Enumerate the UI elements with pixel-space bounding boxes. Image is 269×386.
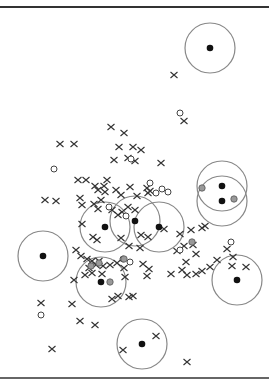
center-point <box>207 45 214 52</box>
cross-marker <box>94 237 101 243</box>
open-circle-marker <box>123 213 129 219</box>
open-circle-marker <box>106 204 112 210</box>
grey-point-marker <box>96 260 102 266</box>
cross-marker <box>171 72 178 78</box>
cross-marker <box>104 177 111 183</box>
cross-marker <box>130 144 137 150</box>
center-point <box>219 183 226 190</box>
cross-marker <box>120 347 127 353</box>
cross-marker <box>121 130 128 136</box>
open-circle-marker <box>128 156 134 162</box>
cross-marker <box>99 271 106 277</box>
cross-marker <box>73 247 80 253</box>
cross-marker <box>38 300 45 306</box>
grey-point-marker <box>107 279 113 285</box>
cross-marker <box>75 177 82 183</box>
cross-marker <box>193 251 200 257</box>
plot-area <box>0 0 269 386</box>
cross-marker <box>183 259 190 265</box>
cross-marker <box>53 198 60 204</box>
open-circle-marker <box>51 166 57 172</box>
open-circle-marker <box>177 110 183 116</box>
cross-marker <box>111 157 118 163</box>
cross-marker <box>184 359 191 365</box>
cross-marker <box>82 272 89 278</box>
cross-marker <box>79 221 86 227</box>
cross-marker <box>57 141 64 147</box>
cross-marker <box>77 318 84 324</box>
open-circle-marker <box>177 247 183 253</box>
open-circle-marker <box>165 189 171 195</box>
cross-marker <box>184 272 191 278</box>
cross-marker <box>118 235 125 241</box>
center-point <box>132 218 139 225</box>
center-point <box>234 277 241 284</box>
cross-marker <box>207 264 214 270</box>
cross-marker <box>127 184 134 190</box>
cross-marker <box>115 293 122 299</box>
center-point <box>98 279 105 286</box>
cross-marker <box>108 124 115 130</box>
center-point <box>139 341 146 348</box>
cross-marker <box>181 118 188 124</box>
cross-marker <box>101 183 108 189</box>
cross-marker <box>69 301 76 307</box>
cross-marker <box>158 160 165 166</box>
grey-point-marker <box>199 185 205 191</box>
grey-point-marker <box>121 256 127 262</box>
cross-marker <box>202 223 209 229</box>
cross-marker <box>132 207 139 213</box>
open-circle-marker <box>147 180 153 186</box>
center-point <box>219 198 226 205</box>
cross-marker <box>147 188 154 194</box>
cross-marker <box>199 268 206 274</box>
cross-marker <box>229 263 236 269</box>
cross-marker <box>77 195 84 201</box>
cross-marker <box>114 260 121 266</box>
cross-marker <box>243 264 250 270</box>
cross-marker <box>193 271 200 277</box>
cross-marker <box>78 253 85 259</box>
open-circle-marker <box>228 239 234 245</box>
cross-marker <box>71 141 78 147</box>
cross-marker <box>49 346 56 352</box>
cross-marker <box>95 206 102 212</box>
cross-marker <box>42 197 49 203</box>
cross-marker <box>138 147 145 153</box>
cross-marker <box>224 246 231 252</box>
cross-marker <box>145 234 152 240</box>
cross-marker <box>79 202 86 208</box>
grey-point-marker <box>88 263 94 269</box>
cross-marker <box>140 261 147 267</box>
scatter-diagram <box>0 0 269 386</box>
cross-marker <box>92 322 99 328</box>
center-point <box>40 253 47 260</box>
bottom-border-line <box>0 377 269 379</box>
cross-marker <box>214 257 221 263</box>
cross-marker <box>188 227 195 233</box>
cross-marker <box>109 296 116 302</box>
cross-marker <box>107 262 114 268</box>
cross-marker <box>102 189 109 195</box>
grey-point-marker <box>231 196 237 202</box>
cross-marker <box>83 177 90 183</box>
center-point <box>156 224 163 231</box>
open-circle-marker <box>159 186 165 192</box>
cross-marker <box>144 273 151 279</box>
cross-marker <box>115 212 122 218</box>
center-point <box>102 224 109 231</box>
cross-marker <box>116 144 123 150</box>
open-circle-marker <box>153 190 159 196</box>
open-circle-marker <box>127 259 133 265</box>
grey-point-marker <box>189 239 195 245</box>
cross-marker <box>138 232 145 238</box>
cross-marker <box>168 271 175 277</box>
cross-marker <box>118 192 125 198</box>
cross-marker <box>153 333 160 339</box>
open-circle-marker <box>38 312 44 318</box>
